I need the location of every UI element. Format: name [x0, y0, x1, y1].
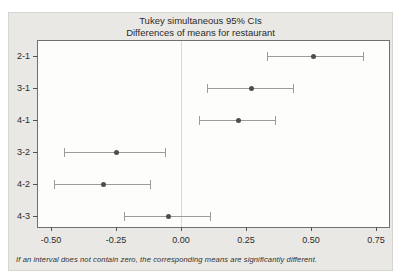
y-tick: [33, 152, 38, 153]
ci-cap-right: [165, 148, 166, 157]
ci-cap-right: [210, 212, 211, 221]
x-tick-label: 0.75: [356, 235, 396, 245]
chart-title: Tukey simultaneous 95% CIs: [9, 15, 392, 27]
y-tick-label: 2-1: [0, 50, 30, 62]
chart-subtitle: Differences of means for restaurant: [9, 27, 392, 39]
plot-area: [38, 41, 389, 227]
ci-cap-right: [275, 116, 276, 125]
y-tick-label: 4-3: [0, 210, 30, 222]
ci-mean-dot: [114, 150, 119, 155]
x-tick-label: 0.25: [226, 235, 266, 245]
y-tick-label: 4-2: [0, 178, 30, 190]
x-tick: [51, 227, 52, 231]
ci-cap-right: [293, 84, 294, 93]
ci-mean-dot: [236, 118, 241, 123]
x-tick: [376, 227, 377, 231]
chart-header: Tukey simultaneous 95% CIs Differences o…: [9, 15, 392, 39]
ci-cap-left: [54, 180, 55, 189]
x-tick: [246, 227, 247, 231]
ci-cap-left: [207, 84, 208, 93]
y-tick: [33, 120, 38, 121]
y-tick-label: 3-1: [0, 82, 30, 94]
y-tick-label: 3-2: [0, 146, 30, 158]
ci-cap-left: [124, 212, 125, 221]
y-tick: [33, 184, 38, 185]
x-tick: [116, 227, 117, 231]
zero-reference-line: [181, 41, 182, 227]
ci-cap-left: [199, 116, 200, 125]
ci-cap-right: [150, 180, 151, 189]
y-tick-label: 4-1: [0, 114, 30, 126]
axes-layer: 2-13-14-13-24-24-3-0.50-0.250.000.250.50…: [38, 41, 389, 227]
ci-mean-dot: [101, 182, 106, 187]
x-tick-label: 0.50: [291, 235, 331, 245]
x-tick-label: 0.00: [161, 235, 201, 245]
x-tick: [311, 227, 312, 231]
y-tick: [33, 88, 38, 89]
ci-mean-dot: [249, 86, 254, 91]
footnote: If an interval does not contain zero, th…: [16, 255, 317, 264]
x-tick-label: -0.25: [96, 235, 136, 245]
x-tick: [181, 227, 182, 231]
ci-mean-dot: [166, 214, 171, 219]
ci-cap-right: [363, 52, 364, 61]
x-tick-label: -0.50: [31, 235, 71, 245]
y-tick: [33, 216, 38, 217]
y-tick: [33, 56, 38, 57]
ci-cap-left: [267, 52, 268, 61]
ci-cap-left: [64, 148, 65, 157]
ci-mean-dot: [311, 54, 316, 59]
tukey-ci-figure: Tukey simultaneous 95% CIs Differences o…: [8, 12, 393, 271]
